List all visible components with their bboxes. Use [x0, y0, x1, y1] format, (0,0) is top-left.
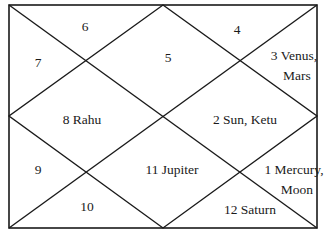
house-10-label: 10: [80, 199, 94, 215]
house-1-line1: 1 Mercury,: [264, 160, 323, 180]
house-5-label: 5: [165, 50, 172, 66]
house-2-label: 2 Sun, Ketu: [213, 112, 277, 128]
house-6-label: 6: [82, 19, 89, 35]
house-1-label: 1 Mercury, Moon: [264, 160, 323, 200]
house-3-label: 3 Venus, Mars: [271, 46, 317, 86]
chart-grid-lines: [0, 0, 326, 238]
house-7-label: 7: [35, 55, 42, 71]
house-11-label: 11 Jupiter: [145, 162, 198, 178]
house-9-label: 9: [35, 162, 42, 178]
house-4-label: 4: [234, 22, 241, 38]
house-1-line2: Moon: [264, 180, 323, 200]
house-8-label: 8 Rahu: [63, 112, 102, 128]
house-12-label: 12 Saturn: [224, 202, 276, 218]
house-3-line2: Mars: [271, 66, 317, 86]
horoscope-chart: 6 7 5 4 3 Venus, Mars 8 Rahu 2 Sun, Ketu…: [0, 0, 326, 238]
house-3-line1: 3 Venus,: [271, 46, 317, 66]
